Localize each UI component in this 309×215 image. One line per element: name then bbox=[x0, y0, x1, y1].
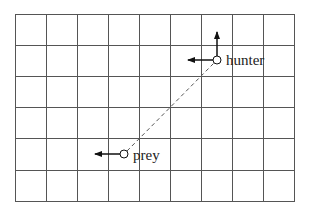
hunter-node-icon bbox=[213, 56, 221, 64]
pursuit-diagram: hunter prey bbox=[0, 0, 309, 215]
prey-agent: prey bbox=[95, 147, 160, 163]
hunter-label: hunter bbox=[226, 52, 264, 68]
prey-label: prey bbox=[133, 147, 160, 163]
hunter-agent: hunter bbox=[188, 32, 264, 68]
prey-node-icon bbox=[120, 150, 128, 158]
grid bbox=[15, 14, 295, 202]
